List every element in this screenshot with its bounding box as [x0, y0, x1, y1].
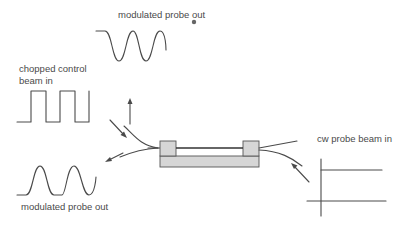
- bottom-output-label: modulated probe out: [21, 201, 108, 213]
- control-in-label-line1: chopped control: [19, 63, 87, 75]
- left-fiber-upper: [124, 126, 158, 148]
- device-substrate: [160, 156, 259, 167]
- cw-in-arrow-icon: [291, 163, 309, 182]
- output-out-arrow-icon: [105, 153, 123, 162]
- device-right pad: [243, 141, 259, 156]
- left-fiber-lower: [120, 148, 158, 157]
- diagram-graphics: [0, 0, 408, 227]
- optical-switch-diagram: modulated probe out chopped control beam…: [0, 0, 408, 227]
- bottom-modulated-probe-waveform: [17, 166, 96, 195]
- top-modulated-probe-waveform: [96, 31, 166, 61]
- up-arrow-icon: [128, 98, 133, 124]
- device-left-pad: [160, 141, 176, 156]
- top-output-label: modulated probe out: [118, 9, 205, 21]
- right-fiber-lower: [259, 150, 302, 166]
- right-fiber-upper: [259, 141, 297, 148]
- chopped-control-waveform: [17, 91, 89, 122]
- control-in-label-line2: beam in: [19, 75, 53, 87]
- cw-in-label: cw probe beam in: [317, 133, 392, 145]
- control-in-arrow-icon: [110, 120, 127, 138]
